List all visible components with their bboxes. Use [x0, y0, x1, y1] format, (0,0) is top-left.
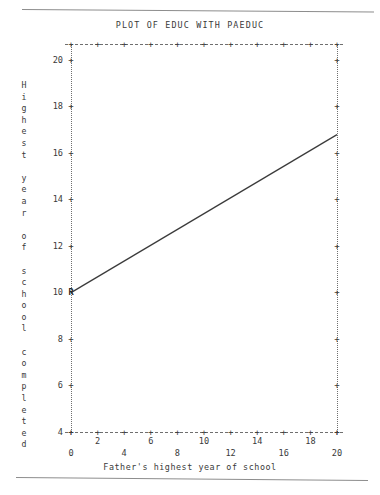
x-tick-top: +	[173, 40, 182, 49]
y-axis-title-char: l	[16, 323, 32, 335]
regression-line	[71, 44, 337, 432]
y-tick-right: +	[333, 335, 342, 344]
y-tick-label: 8	[23, 335, 63, 344]
y-tick-label: 14	[23, 195, 63, 204]
y-axis-title-char: e	[16, 126, 32, 138]
y-tick-label: 4	[23, 428, 63, 437]
y-tick-right: +	[333, 56, 342, 65]
page-rule-bottom	[16, 477, 368, 481]
y-axis-title-char: o	[16, 231, 32, 243]
x-tick-bottom: +	[226, 428, 235, 437]
y-axis-title-char: y	[16, 173, 32, 185]
x-tick-top: +	[93, 40, 102, 49]
y-axis-title-gap	[16, 254, 32, 266]
x-tick-top: +	[146, 40, 155, 49]
x-axis-title: Father's highest year of school	[0, 462, 380, 472]
x-tick-label: 4	[112, 449, 136, 458]
x-tick-bottom: +	[333, 428, 342, 437]
x-tick-label: 10	[192, 437, 216, 446]
y-axis-title: Highestyearofschoolcompleted	[16, 80, 32, 451]
y-tick-label: 12	[23, 242, 63, 251]
y-tick-left: +	[67, 56, 76, 65]
y-tick-right: +	[333, 288, 342, 297]
x-tick-bottom: +	[120, 428, 129, 437]
y-tick-right: +	[333, 102, 342, 111]
y-axis-title-char: c	[16, 277, 32, 289]
y-axis-title-char: l	[16, 393, 32, 405]
y-axis-title-char: c	[16, 347, 32, 359]
y-axis-title-char: H	[16, 80, 32, 92]
y-tick-label: 18	[23, 102, 63, 111]
y-tick-label: 10	[23, 288, 63, 297]
y-axis-title-char: o	[16, 358, 32, 370]
y-tick-left: +	[67, 102, 76, 111]
x-tick-top: +	[306, 40, 315, 49]
x-tick-label: 16	[272, 449, 296, 458]
y-tick-right: +	[333, 242, 342, 251]
chart-title: PLOT OF EDUC WITH PAEDUC	[0, 20, 380, 30]
page-rule-top	[22, 9, 374, 13]
x-tick-label: 12	[219, 449, 243, 458]
x-tick-label: 14	[245, 437, 269, 446]
y-axis-title-char: o	[16, 312, 32, 324]
x-tick-top: +	[226, 40, 235, 49]
y-tick-left: +	[67, 195, 76, 204]
x-tick-label: 6	[139, 437, 163, 446]
y-tick-left: +	[67, 335, 76, 344]
y-tick-left: +	[67, 149, 76, 158]
y-tick-label: 6	[23, 381, 63, 390]
y-axis-title-char: e	[16, 405, 32, 417]
x-tick-label: 2	[86, 437, 110, 446]
y-axis-title-char: h	[16, 115, 32, 127]
y-axis-title-gap	[16, 161, 32, 173]
y-axis-title-char: d	[16, 439, 32, 451]
plot-area: ++4++6++8R+10++12++14++16++18++20+++++++…	[71, 44, 337, 432]
y-tick-right: +	[333, 149, 342, 158]
x-tick-top: +	[333, 40, 342, 49]
y-axis-title-char: t	[16, 416, 32, 428]
y-axis-title-char: m	[16, 370, 32, 382]
x-tick-top: +	[200, 40, 209, 49]
y-tick-left: +	[67, 381, 76, 390]
x-tick-label: 0	[59, 449, 83, 458]
x-tick-top: +	[67, 40, 76, 49]
y-tick-right: +	[333, 381, 342, 390]
y-axis-title-char: s	[16, 266, 32, 278]
y-axis-title-gap	[16, 219, 32, 231]
y-axis-title-char: o	[16, 300, 32, 312]
x-tick-label: 8	[165, 449, 189, 458]
x-tick-label: 20	[325, 449, 349, 458]
data-point-marker: R	[67, 288, 76, 297]
x-tick-top: +	[253, 40, 262, 49]
y-tick-label: 20	[23, 56, 63, 65]
y-axis-title-char: r	[16, 208, 32, 220]
y-tick-label: 16	[23, 149, 63, 158]
plot-page: PLOT OF EDUC WITH PAEDUC Highestyearofsc…	[0, 0, 380, 495]
x-tick-bottom: +	[67, 428, 76, 437]
x-tick-label: 18	[298, 437, 322, 446]
y-tick-left: +	[67, 242, 76, 251]
x-tick-bottom: +	[279, 428, 288, 437]
x-tick-top: +	[279, 40, 288, 49]
x-tick-top: +	[120, 40, 129, 49]
y-tick-right: +	[333, 195, 342, 204]
x-tick-bottom: +	[173, 428, 182, 437]
